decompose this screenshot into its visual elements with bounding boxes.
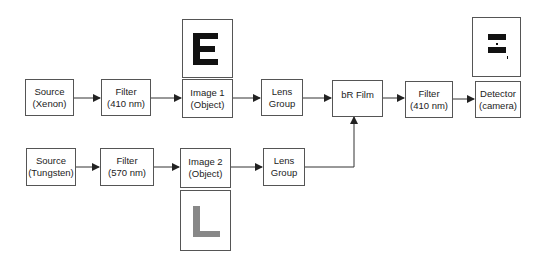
letter-e-icon — [193, 33, 219, 65]
lens-top-label-1: Lens — [272, 86, 293, 98]
filter-410-box-a: Filter (410 nm) — [101, 79, 151, 116]
letter-l-icon — [193, 206, 221, 238]
filter-410-a-label-2: (410 nm) — [107, 98, 145, 110]
filter-410-b-label-1: Filter — [418, 88, 439, 100]
image1-box: Image 1 (Object) — [182, 79, 233, 118]
lens-group-bottom-box: Lens Group — [263, 148, 305, 186]
source-xenon-box: Source (Xenon) — [25, 79, 74, 116]
output-bar-top — [488, 34, 506, 40]
image2-label-1: Image 2 — [188, 156, 222, 168]
image1-label-2: (Object) — [191, 99, 225, 111]
detector-output-picture — [472, 17, 521, 77]
output-bar-middle — [488, 47, 506, 53]
source-tungsten-label-2: (Tungsten) — [28, 167, 74, 179]
output-dot — [496, 43, 498, 45]
br-film-label: bR Film — [341, 89, 374, 101]
connector-layer — [0, 0, 545, 265]
filter-410-box-b: Filter (410 nm) — [405, 81, 453, 118]
lens-top-label-2: Group — [269, 98, 295, 110]
source-tungsten-label-1: Source — [36, 155, 66, 167]
image2-object-picture — [180, 190, 231, 251]
arrow-lens-to-brfilm-bottom — [304, 117, 354, 167]
lens-bottom-label-1: Lens — [274, 155, 295, 167]
output-tick — [507, 56, 508, 59]
detector-label-1: Detector — [480, 88, 516, 100]
lens-group-top-box: Lens Group — [261, 79, 303, 116]
br-film-box: bR Film — [332, 80, 383, 117]
filter-570-box: Filter (570 nm) — [100, 148, 154, 186]
source-xenon-label-1: Source — [34, 86, 64, 98]
filter-570-label-1: Filter — [116, 155, 137, 167]
image1-object-picture — [182, 19, 233, 78]
filter-410-b-label-2: (410 nm) — [410, 100, 448, 112]
source-tungsten-box: Source (Tungsten) — [26, 148, 76, 186]
filter-410-a-label-1: Filter — [115, 86, 136, 98]
detector-label-2: (camera) — [479, 100, 517, 112]
detector-box: Detector (camera) — [475, 81, 521, 118]
image2-box: Image 2 (Object) — [180, 148, 231, 188]
image1-label-1: Image 1 — [190, 87, 224, 99]
lens-bottom-label-2: Group — [271, 167, 297, 179]
source-xenon-label-2: (Xenon) — [33, 98, 67, 110]
filter-570-label-2: (570 nm) — [108, 167, 146, 179]
image2-label-2: (Object) — [189, 168, 223, 180]
